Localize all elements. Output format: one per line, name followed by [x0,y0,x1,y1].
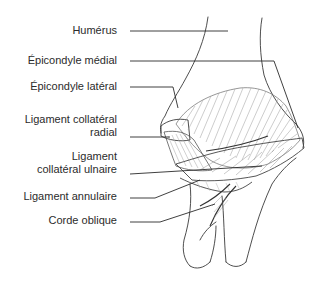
annular-hatching [196,180,240,192]
humerus-outline [160,17,303,148]
forearm-bones [183,158,296,268]
label-epicondyle-medial: Épicondyle médial [28,54,117,67]
anatomy-illustration [0,0,323,285]
label-ligament-collateral-radial: Ligament collatéral radial [25,113,117,139]
label-corde-oblique: Corde oblique [49,214,118,227]
elbow-ligament-diagram: Humérus Épicondyle médial Épicondyle lat… [0,0,323,285]
leader-ligament-collateral-ulnaire [130,166,262,174]
oblique-cord [200,184,236,226]
radial-band-hatching [168,134,204,169]
radial-collateral-band [164,131,212,171]
label-ligament-annulaire: Ligament annulaire [23,190,117,203]
label-ligament-collateral-ulnaire: Ligament collatéral ulnaire [37,150,117,176]
lateral-epicondyle [161,119,190,141]
leader-corde-oblique [130,204,215,222]
label-humerus: Humérus [72,24,117,37]
leader-lines [130,31,298,222]
label-epicondyle-lateral: Épicondyle latéral [30,80,117,93]
